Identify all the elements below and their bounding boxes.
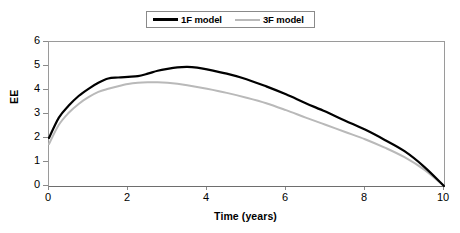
chart-figure: 1F model 3F model EE 0123456 0246810 Tim… bbox=[0, 0, 460, 233]
series-line-3f-model bbox=[49, 82, 444, 186]
y-axis-tick-label: 5 bbox=[0, 59, 40, 70]
y-axis-tick-label: 1 bbox=[0, 155, 40, 166]
y-axis-tick-label: 6 bbox=[0, 35, 40, 46]
y-axis-tick-label: 3 bbox=[0, 107, 40, 118]
plot-area bbox=[48, 41, 445, 187]
y-axis-tick-label: 2 bbox=[0, 131, 40, 142]
legend-entry-3f-model: 3F model bbox=[235, 15, 304, 25]
series-line-1f-model bbox=[49, 67, 444, 186]
figure-caption-cropped bbox=[0, 228, 460, 233]
y-axis-tick-label: 4 bbox=[0, 83, 40, 94]
x-axis-tick-label: 0 bbox=[28, 192, 68, 203]
legend-line-swatch-1f-icon bbox=[153, 18, 178, 21]
legend-label-3f-model: 3F model bbox=[263, 15, 304, 25]
x-axis-tick-label: 2 bbox=[107, 192, 147, 203]
x-axis-tick-label: 8 bbox=[344, 192, 384, 203]
chart-legend: 1F model 3F model bbox=[146, 11, 315, 28]
series-canvas bbox=[49, 42, 444, 186]
x-axis-title: Time (years) bbox=[48, 210, 443, 222]
legend-label-1f-model: 1F model bbox=[181, 15, 222, 25]
x-axis-tick-label: 6 bbox=[265, 192, 305, 203]
legend-entry-1f-model: 1F model bbox=[153, 15, 222, 25]
y-axis-tick-label: 0 bbox=[0, 179, 40, 190]
x-axis-tick-label: 4 bbox=[186, 192, 226, 203]
legend-line-swatch-3f-icon bbox=[235, 19, 260, 21]
x-axis-tick-label: 10 bbox=[423, 192, 460, 203]
